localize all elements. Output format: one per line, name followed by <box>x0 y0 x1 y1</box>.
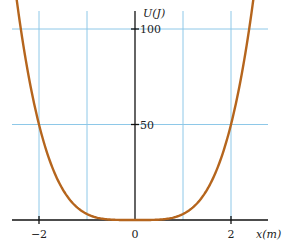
potential-energy-chart: U(J) 100 50 −2 0 2 x(m) <box>0 0 291 251</box>
x-tick-label-neg2: −2 <box>31 228 47 241</box>
y-axis-label: U(J) <box>143 7 165 20</box>
axes <box>12 11 268 224</box>
y-tick-label-100: 100 <box>140 23 161 36</box>
x-tick-label-0: 0 <box>132 228 139 241</box>
y-tick-label-50: 50 <box>140 119 154 132</box>
x-axis-label: x(m) <box>256 228 281 241</box>
x-tick-label-2: 2 <box>228 228 235 241</box>
grid <box>12 11 268 220</box>
